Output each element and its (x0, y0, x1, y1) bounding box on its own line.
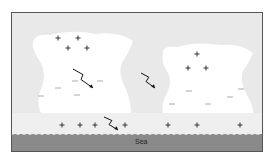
right-cloud (163, 43, 254, 113)
sea-label: Sea (135, 138, 147, 145)
diagram-frame: Sea (11, 12, 263, 152)
ground-air-band (12, 113, 263, 135)
left-cloud (33, 32, 133, 113)
thundercloud-charge-diagram (12, 13, 263, 152)
